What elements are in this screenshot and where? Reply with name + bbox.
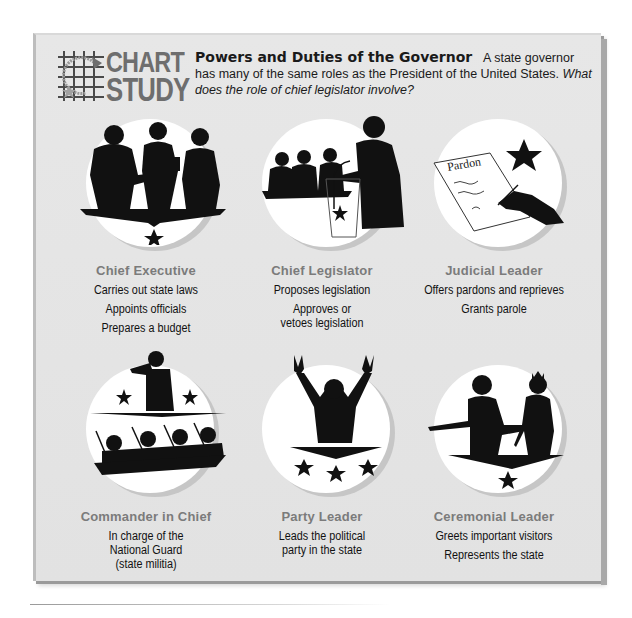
grid-logo-icon	[56, 49, 106, 101]
role-label: Party Leader	[232, 509, 412, 524]
duty-item: Prepares a budget	[65, 321, 227, 335]
role-chief-legislator: Chief Legislator Proposes legislation Ap…	[232, 119, 412, 330]
duty-item: Offers pardons and reprieves	[413, 283, 575, 297]
podium-speaker-icon	[242, 105, 412, 245]
role-label: Judicial Leader	[404, 263, 584, 278]
chart-study-logo: CHART STUDY	[52, 47, 192, 105]
executives-meeting-icon	[66, 105, 236, 245]
greeting-visitor-icon	[414, 351, 584, 491]
role-chief-executive: Chief Executive Carries out state laws A…	[56, 119, 236, 335]
duty-item: Greets important visitors	[413, 529, 575, 543]
victory-gesture-icon	[242, 351, 412, 491]
duty-item: Leads the political party in the state	[268, 529, 376, 557]
role-label: Chief Executive	[56, 263, 236, 278]
role-judicial-leader: Pardon Judicial Leader Offers pardons an…	[404, 119, 584, 316]
chart-intro: Powers and Duties of the Governor A stat…	[195, 49, 595, 98]
chart-header: CHART STUDY Powers and Duties of the Gov…	[52, 47, 592, 107]
role-label: Chief Legislator	[232, 263, 412, 278]
duty-item: Represents the state	[413, 548, 575, 562]
role-ceremonial-leader: Ceremonial Leader Greets important visit…	[404, 365, 584, 562]
role-commander-in-chief: Commander in Chief In charge of the Nati…	[56, 365, 236, 571]
chart-study-panel: CHART STUDY Powers and Duties of the Gov…	[33, 33, 601, 581]
saluting-soldiers-icon	[66, 351, 236, 491]
duty-item: Grants parole	[413, 302, 575, 316]
logo-word-study: STUDY	[106, 73, 189, 106]
duty-item: In charge of the National Guard (state m…	[101, 529, 191, 571]
role-party-leader: Party Leader Leads the political party i…	[232, 365, 412, 557]
page-divider-rule	[30, 604, 390, 605]
duty-item: Proposes legislation	[241, 283, 403, 297]
duty-item: Approves or vetoes legislation	[277, 302, 367, 330]
pardon-document-icon: Pardon	[414, 105, 584, 245]
duty-item: Carries out state laws	[65, 283, 227, 297]
duty-item: Appoints officials	[65, 302, 227, 316]
chart-title: Powers and Duties of the Governor	[195, 49, 472, 65]
role-label: Ceremonial Leader	[404, 509, 584, 524]
role-label: Commander in Chief	[56, 509, 236, 524]
